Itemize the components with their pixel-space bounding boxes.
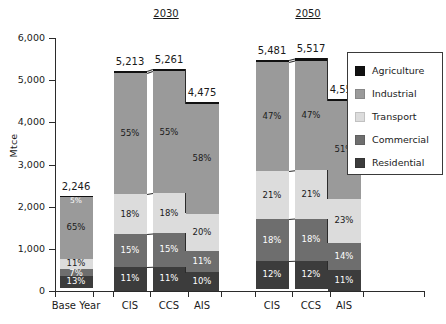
y-tick-label: 3,000 (1, 159, 45, 170)
segment-connector-line (289, 261, 295, 262)
bar-segment-transport: 18% (153, 193, 186, 233)
segment-percent-label: 18% (295, 235, 328, 244)
legend-item-industrial[interactable]: Industrial (355, 82, 442, 105)
bar-segment-commercial: 11% (186, 251, 219, 272)
legend-item-label: Transport (372, 111, 417, 122)
group-header: 2030 (126, 8, 206, 19)
segment-percent-label: 11% (328, 276, 361, 285)
segment-percent-label: 20% (186, 228, 219, 237)
bar-segment-industrial: 47% (256, 62, 289, 171)
segment-percent-label: 21% (256, 191, 289, 200)
y-axis-tick: 3,000 (49, 165, 55, 166)
bar-segment-transport: 21% (256, 171, 289, 220)
bar-segment-transport: 21% (295, 170, 328, 219)
bar-segment-residential: 12% (256, 261, 289, 289)
segment-percent-label: 58% (186, 154, 219, 163)
legend-item-label: Residential (372, 157, 424, 168)
bar-segment-industrial: 55% (114, 73, 147, 194)
x-tick-mark (93, 291, 94, 297)
legend-swatch-icon (355, 89, 365, 99)
segment-connector-line (185, 193, 186, 213)
segment-percent-label: 15% (153, 245, 186, 254)
bar-column: 65%11%7%13% (60, 196, 93, 291)
bar-total-label: 2,246 (31, 181, 121, 192)
x-tick-mark (255, 291, 256, 297)
legend-item-residential[interactable]: Residential (355, 151, 442, 174)
bar-total-label: 5,517 (266, 43, 356, 54)
chart-legend: AgricultureIndustrialTransportCommercial… (347, 52, 443, 175)
bar-segment-transport: 18% (114, 194, 147, 234)
base-year-extra-label: 5% (60, 197, 93, 205)
x-tick-mark (221, 291, 222, 297)
segment-percent-label: 10% (186, 277, 219, 286)
segment-connector-line (327, 261, 328, 270)
bar-segment-commercial: 18% (295, 219, 328, 261)
y-tick-label: 5,000 (1, 74, 45, 85)
y-axis-tick: 4,000 (49, 122, 55, 123)
legend-swatch-icon (355, 158, 365, 168)
segment-connector-line (327, 219, 328, 243)
segment-percent-label: 11% (60, 259, 93, 268)
segment-percent-label: 18% (114, 210, 147, 219)
segment-connector-line (327, 170, 328, 199)
segment-percent-label: 11% (114, 274, 147, 283)
segment-percent-label: 47% (256, 112, 289, 121)
bar-segment-residential: 11% (328, 270, 361, 291)
bar-column: 58%20%11%10% (186, 102, 219, 291)
bar-total-label: 5,261 (124, 54, 214, 65)
legend-item-transport[interactable]: Transport (355, 105, 442, 128)
legend-item-agriculture[interactable]: Agriculture (355, 59, 442, 82)
segment-percent-label: 23% (328, 216, 361, 225)
segment-percent-label: 55% (114, 129, 147, 138)
bar-total-label: 4,475 (157, 87, 247, 98)
y-axis-tick: 1,000 (49, 249, 55, 250)
x-axis-line (55, 291, 424, 292)
segment-percent-label: 47% (295, 111, 328, 120)
legend-item-commercial[interactable]: Commercial (355, 128, 442, 151)
legend-item-label: Commercial (372, 134, 429, 145)
segment-percent-label: 12% (295, 270, 328, 279)
bar-segment-residential: 11% (114, 267, 147, 291)
bar-segment-industrial: 58% (186, 104, 219, 213)
bar-segment-residential: 10% (186, 272, 219, 291)
y-tick-label: 0 (1, 285, 45, 296)
bar-segment-residential: 13% (60, 276, 93, 288)
segment-percent-label: 11% (186, 257, 219, 266)
y-tick-label: 4,000 (1, 116, 45, 127)
segment-percent-label: 13% (60, 277, 93, 286)
legend-item-label: Agriculture (372, 65, 424, 76)
segment-connector-line (185, 71, 186, 104)
legend-swatch-icon (355, 66, 365, 76)
segment-percent-label: 12% (256, 270, 289, 279)
y-tick-mark (49, 38, 55, 39)
y-tick-mark (49, 249, 55, 250)
y-tick-mark (49, 165, 55, 166)
bar-column: 55%18%15%11% (114, 71, 147, 291)
stacked-bar-chart: Mtce 01,0002,0003,0004,0005,0006,000 Bas… (0, 0, 446, 324)
x-axis-label: AIS (299, 300, 389, 311)
legend-swatch-icon (355, 112, 365, 122)
bar-column: 55%18%15%11% (153, 69, 186, 291)
segment-connector-line (185, 233, 186, 251)
y-tick-mark (49, 80, 55, 81)
x-tick-mark (363, 291, 364, 297)
x-tick-mark (113, 291, 114, 297)
bar-segment-industrial: 47% (295, 61, 328, 170)
segment-connector-line (327, 61, 328, 101)
bar-segment-commercial: 15% (153, 233, 186, 266)
bar-segment-residential: 11% (153, 267, 186, 291)
y-axis-tick: 6,000 (49, 38, 55, 39)
y-axis-line (55, 38, 56, 292)
x-tick-mark (150, 291, 151, 297)
x-tick-mark (424, 291, 425, 297)
bar-segment-commercial: 14% (328, 243, 361, 270)
bar-segment-transport: 20% (186, 214, 219, 252)
x-tick-mark (330, 291, 331, 297)
segment-percent-label: 18% (256, 236, 289, 245)
y-tick-label: 2,000 (1, 201, 45, 212)
segment-connector-line (147, 267, 153, 268)
segment-percent-label: 11% (153, 274, 186, 283)
bar-segment-commercial: 7% (60, 269, 93, 276)
segment-percent-label: 7% (60, 269, 93, 276)
y-axis-tick: 5,000 (49, 80, 55, 81)
